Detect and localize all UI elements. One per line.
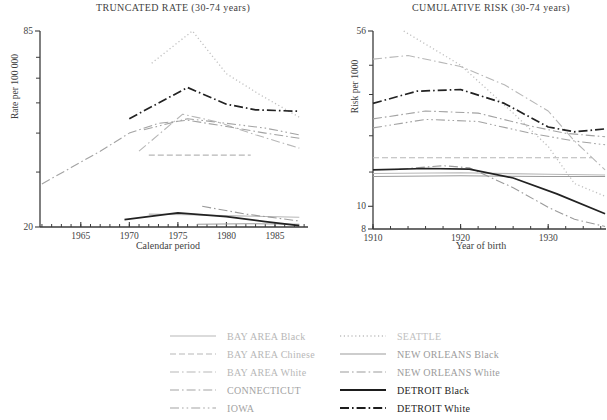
legend-column-1: SEATTLENEW ORLEANS BlackNEW ORLEANS Whit… xyxy=(340,327,530,417)
left-x-axis-label: Calendar period xyxy=(136,240,200,251)
x-tick-label: 1930 xyxy=(539,233,558,243)
legend-item-new-orleans-white: NEW ORLEANS White xyxy=(340,363,530,381)
legend-label: BAY AREA Chinese xyxy=(227,349,315,360)
legend-item-seattle: SEATTLE xyxy=(340,327,530,345)
series-line-bay-area-white xyxy=(373,56,605,170)
legend-item-detroit-white: DETROIT White xyxy=(340,399,530,417)
legend-line-swatch-icon xyxy=(340,387,386,393)
right-x-axis-label: Year of birth xyxy=(456,240,507,251)
y-tick-label: 85 xyxy=(24,26,34,36)
series-line-detroit-white xyxy=(129,88,299,119)
x-tick-label: 1980 xyxy=(217,231,236,241)
legend-item-bay-area-chinese: BAY AREA Chinese xyxy=(170,345,340,363)
figure: TRUNCATED RATE (30-74 years) CUMULATIVE … xyxy=(0,0,607,420)
legend-line-swatch-icon xyxy=(340,369,386,375)
legend-label: NEW ORLEANS White xyxy=(397,367,500,378)
legend-label: DETROIT White xyxy=(397,403,470,414)
series-line-connecticut xyxy=(373,111,605,137)
series-line-seattle xyxy=(404,31,606,197)
chart-0: 852019651970197519801985 xyxy=(24,26,309,241)
legend-line-swatch-icon xyxy=(170,369,216,375)
legend-label: DETROIT Black xyxy=(397,385,469,396)
y-tick-label: 10 xyxy=(357,201,367,211)
legend-column-0: BAY AREA BlackBAY AREA ChineseBAY AREA W… xyxy=(170,327,340,417)
series-line-iowa xyxy=(373,119,605,144)
series-line-detroit-white xyxy=(373,90,605,132)
series-line-new-orleans-white xyxy=(202,206,299,221)
legend-item-detroit-black: DETROIT Black xyxy=(340,381,530,399)
x-tick-label: 1965 xyxy=(71,231,90,241)
legend-label: CONNECTICUT xyxy=(227,385,301,396)
legend-item-connecticut: CONNECTICUT xyxy=(170,381,340,399)
legend-line-swatch-icon xyxy=(340,405,386,411)
legend-item-new-orleans-black: NEW ORLEANS Black xyxy=(340,345,530,363)
legend-item-iowa: IOWA xyxy=(170,399,340,417)
legend-line-swatch-icon xyxy=(170,351,216,357)
series-line-detroit-black xyxy=(373,169,605,214)
y-tick-label: 56 xyxy=(357,26,367,36)
legend-label: IOWA xyxy=(227,403,254,414)
legend-item-bay-area-white: BAY AREA White xyxy=(170,363,340,381)
legend-line-swatch-icon xyxy=(340,333,386,339)
legend-label: NEW ORLEANS Black xyxy=(397,349,499,360)
legend-line-swatch-icon xyxy=(170,333,216,339)
y-tick-label: 20 xyxy=(24,222,34,232)
legend-label: BAY AREA White xyxy=(227,367,306,378)
legend: BAY AREA BlackBAY AREA ChineseBAY AREA W… xyxy=(170,327,530,417)
legend-item-bay-area-black: BAY AREA Black xyxy=(170,327,340,345)
legend-label: BAY AREA Black xyxy=(227,331,305,342)
legend-label: SEATTLE xyxy=(397,331,441,342)
series-line-connecticut xyxy=(42,120,299,184)
series-line-bay-area-white xyxy=(139,114,299,151)
chart-1: 56108191019201930 xyxy=(357,26,607,243)
x-tick-label: 1910 xyxy=(364,233,383,243)
legend-line-swatch-icon xyxy=(170,405,216,411)
charts-canvas: 8520196519701975198019855610819101920193… xyxy=(0,0,607,270)
legend-line-swatch-icon xyxy=(170,387,216,393)
legend-line-swatch-icon xyxy=(340,351,386,357)
x-tick-label: 1985 xyxy=(265,231,284,241)
